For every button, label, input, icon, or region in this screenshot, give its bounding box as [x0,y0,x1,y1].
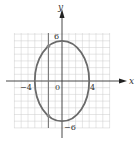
intersection-point-lower [47,114,51,118]
tick-label-origin: 0 [55,83,60,92]
y-axis [60,9,65,138]
x-axis-label: x [129,76,134,86]
tick-label-x-pos-4: 4 [90,83,95,92]
tick-label-y-pos-6: 6 [54,32,59,41]
x-axis-arrow-icon [119,79,127,84]
ellipse-graph: x y −4 0 4 6 −6 [0,0,140,141]
y-axis-label: y [57,2,64,12]
intersection-point-upper [47,44,51,48]
tick-label-y-neg-6: −6 [64,123,76,132]
tick-label-x-neg-4: −4 [20,83,32,92]
